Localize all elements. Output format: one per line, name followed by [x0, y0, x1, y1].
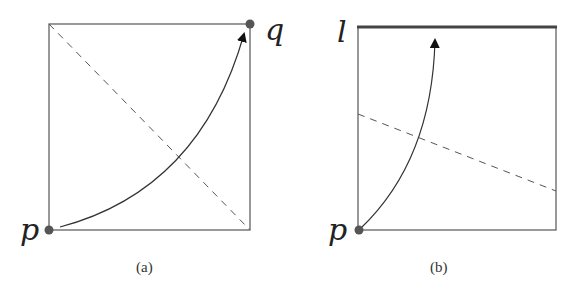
panel-b-caption: (b)	[430, 259, 448, 276]
panel-a-dashed-diagonal	[49, 24, 250, 230]
panel-b-label-p: p	[328, 212, 347, 247]
panel-b-point-p	[355, 226, 364, 235]
panel-a-label-p: p	[20, 212, 39, 247]
panel-b-arrow-curve	[361, 40, 435, 228]
panel-a: p q (a)	[20, 12, 284, 276]
panel-b: l p (b)	[328, 14, 557, 276]
panel-b-dashed-line	[358, 114, 556, 191]
panel-a-label-q: q	[265, 12, 284, 47]
panel-a-point-p	[45, 226, 54, 235]
panel-a-point-q	[246, 20, 255, 29]
panel-b-label-l: l	[337, 14, 347, 49]
panel-a-caption: (a)	[136, 259, 153, 276]
figure-canvas: p q (a) l p (b)	[0, 0, 584, 294]
panel-b-square	[358, 27, 556, 230]
